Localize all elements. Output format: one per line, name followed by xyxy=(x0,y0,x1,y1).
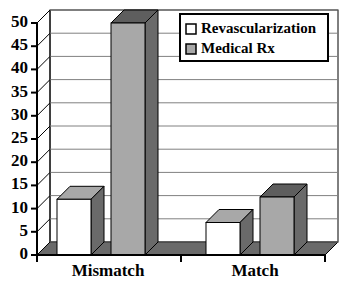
y-tick-label: 0 xyxy=(20,244,29,263)
x-category-label-match: Match xyxy=(231,261,279,280)
y-tick-label: 45 xyxy=(11,35,28,54)
bar-front-face xyxy=(111,23,145,255)
x-category-label-mismatch: Mismatch xyxy=(72,261,145,280)
bar-match-revascularization[interactable] xyxy=(206,210,253,256)
legend-label-medical-rx: Medical Rx xyxy=(201,40,275,56)
y-tick-label: 10 xyxy=(11,198,28,217)
bar-front-face xyxy=(206,223,240,256)
bar-front-face xyxy=(57,199,91,255)
y-tick-label: 50 xyxy=(11,12,28,31)
bar-mismatch-medical-rx[interactable] xyxy=(111,10,158,255)
y-axis-tick-labels: 50 45 40 35 30 25 20 15 10 5 0 xyxy=(11,12,28,263)
bar-front-face xyxy=(260,197,294,255)
legend-item-revascularization[interactable]: Revascularization xyxy=(186,20,317,36)
bar-chart-figure: 50 45 40 35 30 25 20 15 10 5 0 xyxy=(0,0,351,288)
y-tick-label: 25 xyxy=(11,128,28,147)
chart-canvas: 50 45 40 35 30 25 20 15 10 5 0 xyxy=(0,0,351,288)
gray-square-swatch-icon xyxy=(186,44,196,54)
chart-legend: Revascularization Medical Rx xyxy=(180,14,328,61)
y-tick-label: 20 xyxy=(11,151,28,170)
white-square-swatch-icon xyxy=(186,24,196,34)
bar-side-face xyxy=(294,184,307,255)
bar-mismatch-revascularization[interactable] xyxy=(57,186,104,255)
y-tick-label: 15 xyxy=(11,174,28,193)
bar-side-face xyxy=(145,10,158,255)
bar-match-medical-rx[interactable] xyxy=(260,184,307,255)
y-tick-label: 35 xyxy=(11,82,28,101)
y-tick-label: 5 xyxy=(20,221,29,240)
y-tick-label: 40 xyxy=(11,58,28,77)
y-tick-label: 30 xyxy=(11,105,28,124)
legend-label-revascularization: Revascularization xyxy=(201,20,317,36)
x-axis-category-labels: Mismatch Match xyxy=(72,261,280,280)
